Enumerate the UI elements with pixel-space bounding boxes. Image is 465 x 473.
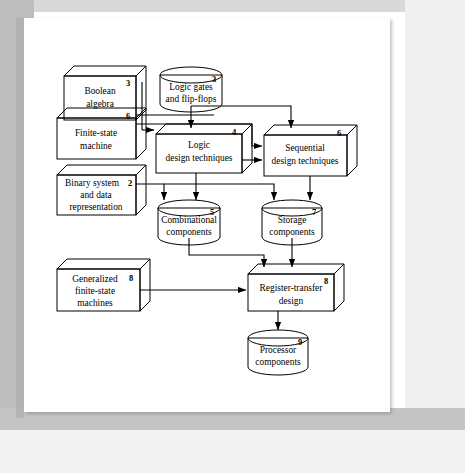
node-label-line: components (269, 227, 315, 237)
node-label-line: Logic (188, 140, 210, 150)
edge-boolean-to-logic (142, 82, 154, 130)
node-label-line: representation (69, 202, 122, 212)
figure-page: Boolean algebra 3 Logic gates and flip-f… (0, 0, 465, 473)
scan-frame-inner-shadow (16, 18, 24, 418)
edge-combinational-to-register (189, 238, 264, 267)
scan-frame-right (405, 0, 465, 473)
chapter-number: 8 (324, 276, 328, 286)
node-register-transfer-design[interactable]: Register-transfer design 8 (248, 264, 344, 311)
edge-binary-to-combinational (136, 184, 164, 200)
chapter-number: 4 (232, 127, 237, 137)
node-logic-gates-flip-flops[interactable]: Logic gates and flip-flops 3 (160, 67, 222, 112)
node-label-line: components (166, 227, 212, 237)
chapter-number: 6 (337, 128, 341, 138)
node-label-line: and flip-flops (166, 94, 217, 104)
node-label-line: Combinational (161, 215, 217, 225)
chapter-number: 9 (298, 337, 302, 347)
node-label-line: finite-state (75, 286, 115, 296)
node-label-line: machine (80, 141, 112, 151)
node-finite-state-machine[interactable]: Finite-state machine 6 (57, 108, 146, 159)
node-label-line: design techniques (166, 153, 233, 163)
chapter-number: 3 (126, 78, 130, 88)
node-processor-components[interactable]: Processor components 9 (248, 330, 308, 375)
edge-binary-to-storage (164, 184, 274, 200)
chapter-number: 5 (210, 207, 214, 217)
node-label-line: machines (77, 298, 113, 308)
node-label-line: components (255, 357, 301, 367)
dependency-diagram: Boolean algebra 3 Logic gates and flip-f… (24, 18, 390, 412)
node-logic-design-techniques[interactable]: Logic design techniques 4 (156, 124, 252, 173)
node-label-line: Finite-state (75, 128, 117, 138)
node-label-line: Generalized (72, 274, 118, 284)
node-label-line: Binary system (65, 178, 120, 188)
node-label-line: Boolean (84, 86, 116, 96)
scan-frame-bottom (0, 430, 465, 473)
node-sequential-design-techniques[interactable]: Sequential design techniques 6 (264, 125, 357, 176)
node-binary-system-data-representation[interactable]: Binary system and data representation 2 (57, 165, 146, 215)
node-label-line: design (279, 296, 304, 306)
node-label-line: Logic gates (169, 82, 213, 92)
scan-frame-top (0, 0, 465, 12)
node-label-line: Sequential (285, 143, 325, 153)
chapter-number: 6 (126, 111, 130, 121)
node-label-line: Register-transfer (260, 283, 324, 293)
node-label-line: and data (80, 190, 112, 200)
node-boolean-algebra[interactable]: Boolean algebra 3 (64, 66, 146, 120)
node-generalized-finite-state-machines[interactable]: Generalized finite-state machines 8 (57, 259, 150, 311)
node-label-line: Storage (278, 215, 307, 225)
chapter-number: 2 (128, 178, 132, 188)
diagram-canvas: Boolean algebra 3 Logic gates and flip-f… (24, 18, 390, 412)
chapter-number: 8 (129, 273, 133, 283)
node-label-line: design techniques (272, 156, 339, 166)
chapter-number: 3 (212, 74, 216, 84)
node-label-line: Processor (260, 345, 297, 355)
